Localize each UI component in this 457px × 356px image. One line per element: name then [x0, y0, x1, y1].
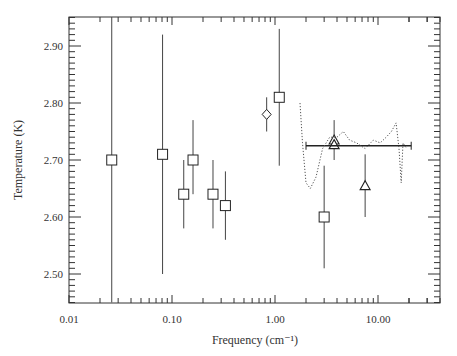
y-axis: 2.502.602.702.802.90	[44, 18, 440, 303]
square-marker	[107, 155, 117, 165]
triangle-marker	[360, 181, 370, 190]
x-tick-label: 1.00	[265, 313, 285, 325]
y-tick-label: 2.70	[44, 154, 64, 166]
plot-border	[69, 17, 440, 303]
y-tick-label: 2.60	[44, 211, 64, 223]
square-marker	[220, 201, 230, 211]
y-tick-label: 2.50	[44, 268, 64, 280]
x-tick-label: 10.00	[366, 313, 391, 325]
plot-frame	[69, 17, 440, 303]
y-tick-label: 2.80	[44, 97, 64, 109]
diamond-marker	[262, 109, 271, 119]
x-axis: 0.010.101.0010.00	[59, 17, 440, 325]
y-tick-label: 2.90	[44, 40, 64, 52]
square-marker	[158, 149, 168, 159]
square-marker	[319, 212, 329, 222]
chart: 0.010.101.0010.00 2.502.602.702.802.90 F…	[0, 0, 457, 356]
x-tick-label: 0.01	[59, 313, 78, 325]
y-axis-label: Temperature (K)	[11, 120, 25, 200]
x-tick-label: 0.10	[162, 313, 182, 325]
square-marker	[208, 189, 218, 199]
data-series	[107, 17, 411, 303]
square-marker	[179, 189, 189, 199]
square-marker	[188, 155, 198, 165]
square-marker	[274, 92, 284, 102]
x-axis-label: Frequency (cm⁻¹)	[212, 333, 298, 347]
